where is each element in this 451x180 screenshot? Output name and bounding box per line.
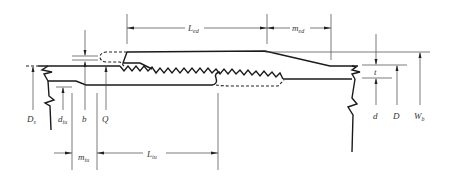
label-d-iu: diu <box>58 114 67 125</box>
label-t: t <box>374 67 377 77</box>
thread-connection-diagram: Led med Ds diu b Q miu Liu t d D Wb <box>0 0 451 180</box>
label-m-ed: med <box>292 23 305 34</box>
pin-outline <box>26 66 220 130</box>
dimension-arrows <box>32 27 422 155</box>
label-d: d <box>373 111 378 121</box>
label-L-iu: Liu <box>146 149 157 160</box>
thread-teeth <box>120 66 283 79</box>
label-b: b <box>82 114 87 124</box>
extension-lines <box>56 14 430 170</box>
box-outline <box>123 51 360 152</box>
diagram-canvas: Led med Ds diu b Q miu Liu t d D Wb <box>0 0 451 180</box>
label-m-iu: miu <box>78 152 89 163</box>
label-D-s: Ds <box>26 114 37 125</box>
label-Q: Q <box>102 114 109 124</box>
label-L-ed: Led <box>187 23 200 34</box>
dimension-labels: Led med Ds diu b Q miu Liu t d D Wb <box>26 23 425 163</box>
label-W-b: Wb <box>414 111 425 122</box>
label-D: D <box>392 111 400 121</box>
